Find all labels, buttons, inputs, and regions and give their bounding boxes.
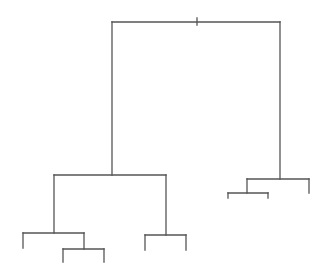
dendrogram xyxy=(0,0,326,277)
